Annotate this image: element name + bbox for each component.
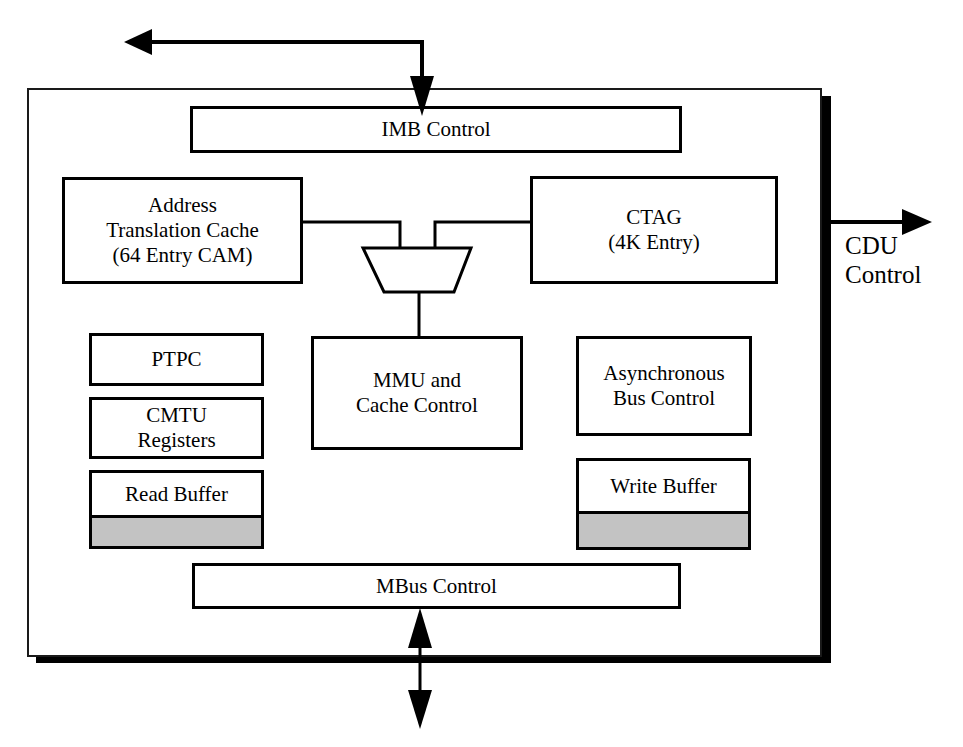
block-address-translation-cache[interactable]: Address Translation Cache (64 Entry CAM): [62, 177, 303, 284]
block-mbus-control[interactable]: MBus Control: [192, 563, 681, 609]
block-ctag[interactable]: CTAG (4K Entry): [530, 176, 778, 284]
block-mbus-control-label: MBus Control: [376, 574, 497, 599]
block-mmu-and-cache-control-label: MMU and Cache Control: [356, 368, 478, 418]
block-write-buffer-fill: [579, 514, 748, 547]
diagram-canvas: IMB Control Address Translation Cache (6…: [0, 0, 963, 747]
block-cmtu-registers-label: CMTU Registers: [137, 403, 215, 453]
block-read-buffer-fill: [92, 518, 261, 546]
block-ptpc-label: PTPC: [151, 347, 201, 372]
block-read-buffer[interactable]: Read Buffer: [89, 470, 264, 549]
block-cmtu-registers[interactable]: CMTU Registers: [89, 397, 264, 459]
arrow-imb-bus-left-head: [124, 29, 152, 55]
block-ptpc[interactable]: PTPC: [89, 333, 264, 386]
block-write-buffer[interactable]: Write Buffer: [576, 458, 751, 550]
block-asynchronous-bus-control[interactable]: Asynchronous Bus Control: [576, 336, 752, 436]
block-imb-control[interactable]: IMB Control: [190, 106, 682, 153]
label-cdu-control: CDU Control: [845, 232, 921, 290]
chip-boundary-shadow-right: [822, 96, 831, 659]
block-asynchronous-bus-control-label: Asynchronous Bus Control: [603, 361, 724, 411]
block-read-buffer-label: Read Buffer: [92, 473, 261, 518]
block-mmu-and-cache-control[interactable]: MMU and Cache Control: [311, 336, 523, 450]
block-imb-control-label: IMB Control: [381, 117, 490, 142]
block-write-buffer-label: Write Buffer: [579, 461, 748, 514]
block-ctag-label: CTAG (4K Entry): [608, 205, 700, 255]
block-address-translation-cache-label: Address Translation Cache (64 Entry CAM): [106, 193, 259, 267]
arrow-mbus-down-head: [408, 690, 432, 729]
